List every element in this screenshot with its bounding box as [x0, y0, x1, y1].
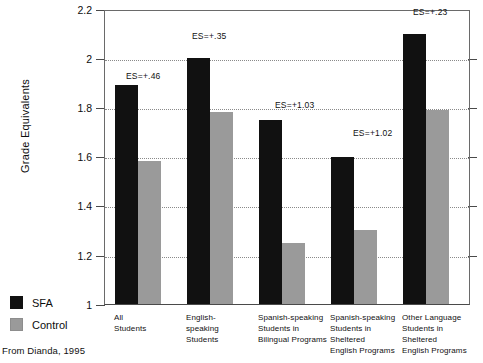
category-line: Students in: [258, 323, 327, 334]
y-tick-1: [96, 305, 105, 306]
category-line: Students: [186, 334, 219, 345]
category-line: Bilingual Programs: [258, 334, 327, 345]
y-tick-label-1.6: 1.6: [50, 151, 92, 163]
y-tick-label-2: 2: [50, 53, 92, 65]
source-note: From Dianda, 1995: [2, 345, 85, 356]
category-line: Spanish-speaking: [330, 312, 395, 323]
category-line: English Programs: [330, 345, 395, 356]
y-axis-title: Grade Equivalents: [19, 46, 31, 206]
category-line: Sheltered: [330, 334, 395, 345]
bar-sfa-other-language[interactable]: [403, 34, 426, 304]
category-line: All: [114, 312, 146, 323]
legend-item-control[interactable]: Control: [10, 318, 67, 331]
plot-area: [104, 10, 470, 305]
chart-title: [150, 0, 400, 3]
bar-sfa-spanish-bilingual[interactable]: [259, 120, 282, 304]
category-line: Spanish-speaking: [258, 312, 327, 323]
y-tick-label-1: 1: [50, 299, 92, 311]
bar-sfa-spanish-sheltered[interactable]: [331, 157, 354, 305]
es-annotation-english-speaking: ES=+.35: [192, 31, 226, 41]
bar-control-spanish-sheltered[interactable]: [354, 230, 377, 304]
category-label-all-students: All Students: [114, 312, 146, 334]
y-tick-label-2.2: 2.2: [50, 4, 92, 16]
bar-control-all-students[interactable]: [138, 161, 161, 304]
legend-label-sfa: SFA: [32, 297, 53, 309]
y-tick-label-1.8: 1.8: [50, 102, 92, 114]
legend-swatch-sfa-icon: [10, 296, 23, 309]
category-line: Students in: [330, 323, 395, 334]
es-annotation-spanish-bilingual: ES=+1.03: [275, 100, 314, 110]
legend-swatch-control-icon: [10, 318, 23, 331]
category-line: English-: [186, 312, 219, 323]
y-tick-label-1.4: 1.4: [50, 200, 92, 212]
bar-control-english-speaking[interactable]: [210, 112, 233, 304]
bar-sfa-all-students[interactable]: [115, 85, 138, 304]
bar-chart: Grade Equivalents 2.2 2 1.8 1.6 1.4 1.2 …: [0, 0, 483, 363]
bar-control-spanish-bilingual[interactable]: [282, 243, 305, 305]
es-annotation-other-language: ES=+.23: [413, 7, 447, 17]
category-line: Sheltered: [402, 334, 467, 345]
category-line: Students in: [402, 323, 467, 334]
bar-sfa-english-speaking[interactable]: [187, 58, 210, 304]
category-label-other-language: Other Language Students in Sheltered Eng…: [402, 312, 467, 356]
bar-control-other-language[interactable]: [426, 110, 449, 304]
legend-item-sfa[interactable]: SFA: [10, 296, 53, 309]
y-tick-label-1.2: 1.2: [50, 250, 92, 262]
category-line: Other Language: [402, 312, 467, 323]
es-annotation-spanish-sheltered: ES=+1.02: [353, 128, 392, 138]
legend-label-control: Control: [32, 319, 67, 331]
category-line: Students: [114, 323, 146, 334]
category-label-english-speaking: English- speaking Students: [186, 312, 219, 345]
category-line: speaking: [186, 323, 219, 334]
category-line: English Programs: [402, 345, 467, 356]
category-label-spanish-bilingual: Spanish-speaking Students in Bilingual P…: [258, 312, 327, 345]
category-label-spanish-sheltered: Spanish-speaking Students in Sheltered E…: [330, 312, 395, 356]
es-annotation-all-students: ES=+.46: [126, 71, 160, 81]
